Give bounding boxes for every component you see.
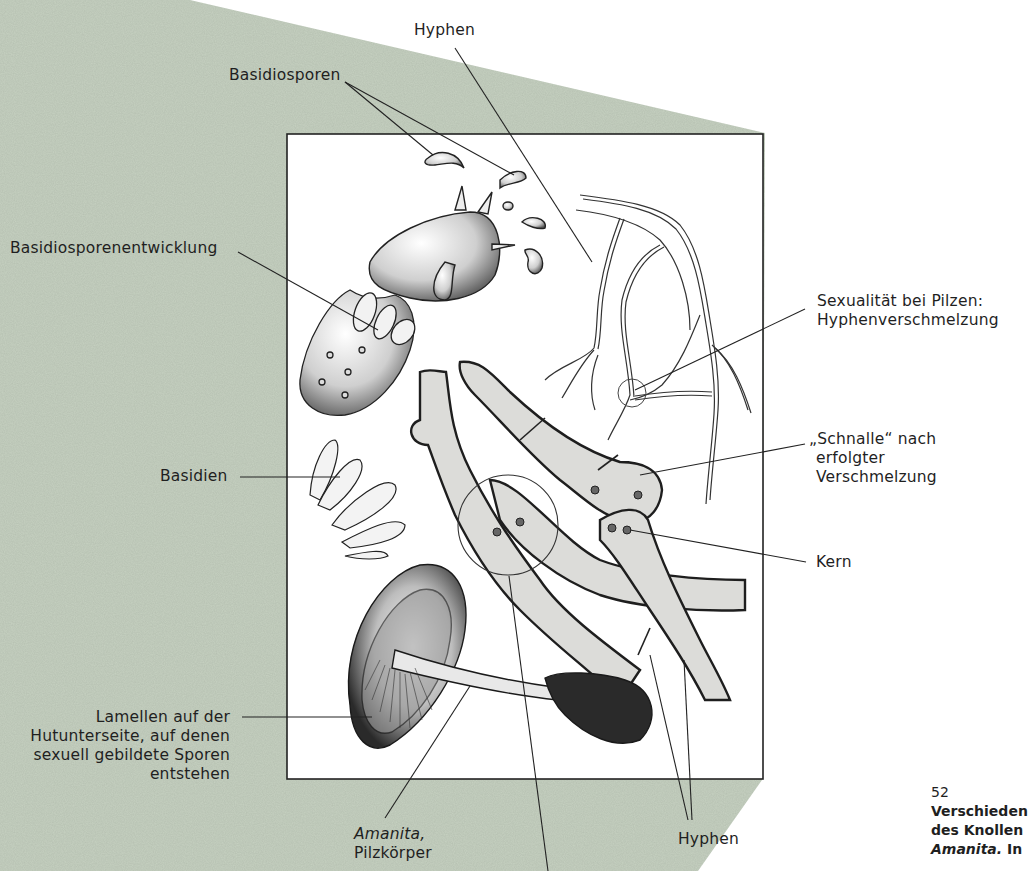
- caption-line3-rest: In: [1002, 841, 1022, 857]
- caption-line3-italic: Amanita.: [931, 841, 1002, 857]
- label-sexualitaet-line2: Hyphenverschmelzung: [817, 311, 999, 330]
- nucleus: [516, 518, 524, 526]
- label-hyphen-bottom: Hyphen: [678, 830, 739, 849]
- label-basidiosporen: Basidiosporen: [229, 66, 341, 85]
- label-sexualitaet: Sexualität bei Pilzen: Hyphenverschmelzu…: [817, 292, 999, 330]
- label-amanita: Amanita, Pilzkörper: [354, 825, 432, 863]
- figure-caption: 52 Verschieden des Knollen Amanita. In: [931, 783, 1028, 859]
- label-schnalle: „Schnalle“ nach erfolgter Verschmelzung: [809, 430, 937, 487]
- label-lamellen: Lamellen auf der Hutunterseite, auf dene…: [30, 708, 230, 784]
- nucleus: [591, 486, 599, 494]
- nucleus: [608, 524, 616, 532]
- caption-line1: Verschieden: [931, 802, 1028, 821]
- label-lamellen-line2: Hutunterseite, auf denen: [30, 727, 230, 746]
- label-hyphen-top: Hyphen: [414, 21, 475, 40]
- label-kern: Kern: [816, 553, 852, 572]
- label-lamellen-line1: Lamellen auf der: [30, 708, 230, 727]
- label-basidien: Basidien: [160, 467, 228, 486]
- label-amanita-line2: Pilzkörper: [354, 844, 432, 863]
- label-schnalle-line1: „Schnalle“ nach: [809, 430, 937, 449]
- label-sexualitaet-line1: Sexualität bei Pilzen:: [817, 292, 999, 311]
- label-lamellen-line4: entstehen: [30, 765, 230, 784]
- nucleus: [623, 526, 631, 534]
- label-schnalle-line2: erfolgter: [809, 449, 937, 468]
- caption-line2: des Knollen: [931, 821, 1028, 840]
- nucleus: [634, 491, 642, 499]
- caption-line3: Amanita. In: [931, 840, 1028, 859]
- label-schnalle-line3: Verschmelzung: [809, 468, 937, 487]
- label-lamellen-line3: sexuell gebildete Sporen: [30, 746, 230, 765]
- label-amanita-italic: Amanita,: [354, 825, 432, 844]
- figure-number: 52: [931, 783, 1028, 802]
- label-basidiosporenentwicklung: Basidiosporenentwicklung: [10, 239, 217, 258]
- nucleus: [493, 528, 501, 536]
